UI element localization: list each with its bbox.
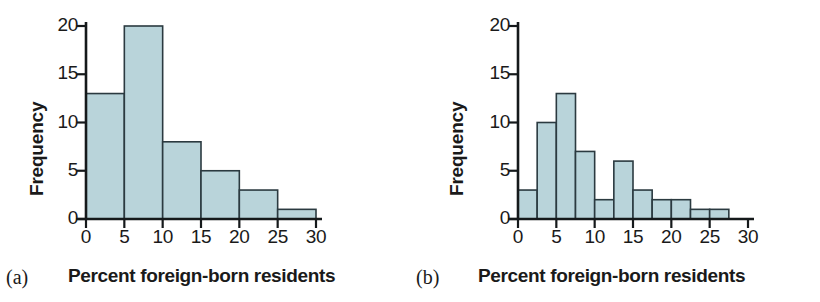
y-tick-label: 10 <box>470 111 510 133</box>
x-tick-label: 5 <box>104 226 144 248</box>
y-tick-label: 5 <box>38 159 78 181</box>
histogram-bar <box>652 200 671 219</box>
histogram-bar <box>86 94 124 219</box>
x-tick-label: 20 <box>219 226 259 248</box>
histogram-bar <box>691 209 710 219</box>
x-tick-label: 0 <box>66 226 106 248</box>
x-tick-label: 20 <box>651 226 691 248</box>
panel-letter-a: (a) <box>6 266 28 289</box>
y-tick-label: 20 <box>470 14 510 36</box>
histogram-bar <box>671 200 690 219</box>
y-tick-label: 20 <box>38 14 78 36</box>
histogram-bar <box>278 209 316 219</box>
histogram-plot-a <box>0 0 410 302</box>
histogram-bar <box>537 123 556 220</box>
histogram-figure: Frequency (a) Percent foreign-born resid… <box>0 0 820 302</box>
histogram-bar <box>710 209 729 219</box>
x-tick-label: 15 <box>181 226 221 248</box>
y-tick-label: 10 <box>38 111 78 133</box>
histogram-panel-b: Frequency (b) Percent foreign-born resid… <box>410 0 820 302</box>
x-tick-label: 10 <box>143 226 183 248</box>
x-axis-label-a: Percent foreign-born residents <box>68 265 335 287</box>
histogram-bar <box>595 200 614 219</box>
y-tick-label: 15 <box>470 62 510 84</box>
histogram-bar <box>201 171 239 219</box>
panel-letter-b: (b) <box>416 266 439 289</box>
y-tick-label: 5 <box>470 159 510 181</box>
x-tick-label: 25 <box>690 226 730 248</box>
histogram-bar <box>518 190 537 219</box>
x-tick-label: 5 <box>536 226 576 248</box>
histogram-bar <box>556 94 575 219</box>
x-tick-label: 10 <box>575 226 615 248</box>
bars-group <box>518 94 729 219</box>
histogram-panel-a: Frequency (a) Percent foreign-born resid… <box>0 0 410 302</box>
histogram-bar <box>576 151 595 219</box>
histogram-bar <box>124 26 162 219</box>
histogram-plot-b <box>410 0 820 302</box>
histogram-bar <box>614 161 633 219</box>
histogram-bar <box>239 190 277 219</box>
x-tick-label: 30 <box>728 226 768 248</box>
x-tick-label: 15 <box>613 226 653 248</box>
x-tick-label: 25 <box>258 226 298 248</box>
histogram-bar <box>163 142 201 219</box>
x-tick-label: 30 <box>296 226 336 248</box>
y-tick-label: 15 <box>38 62 78 84</box>
histogram-bar <box>633 190 652 219</box>
bars-group <box>86 26 316 219</box>
x-axis-label-b: Percent foreign-born residents <box>478 265 745 287</box>
x-tick-label: 0 <box>498 226 538 248</box>
